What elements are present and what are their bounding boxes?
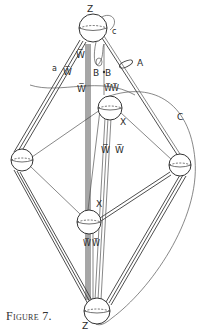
- sphere-upper-x: [98, 96, 122, 120]
- label-lower-x: X: [96, 199, 102, 209]
- edges-upper: [14, 36, 180, 156]
- label-w-middle: W̅: [77, 83, 86, 94]
- label-c-small: c: [112, 27, 116, 36]
- ellipse-a: [118, 59, 133, 70]
- sphere-top-z: [79, 14, 107, 42]
- label-c-curve: C: [177, 112, 183, 122]
- sphere-lower-x: [77, 210, 101, 234]
- label-b-left: B: [93, 68, 99, 78]
- sphere-left: [11, 149, 33, 171]
- label-upper-x: X: [120, 117, 126, 127]
- label-w-center-right: W̅: [115, 144, 124, 155]
- label-bottom-z: Z: [82, 321, 88, 330]
- label-small-a: a: [52, 64, 57, 73]
- label-a-ellipse: A: [137, 58, 144, 68]
- label-top-z: Z: [87, 4, 93, 14]
- label-w-lower-left: W̅: [83, 238, 91, 248]
- octahedron-diagram: Z c W̅ A a W̅ B B W̅ W̅ W̅ X C W̅ W̅ X W…: [0, 0, 205, 330]
- sphere-right: [169, 154, 191, 176]
- label-w-left: W̅: [63, 66, 72, 77]
- edges-lower: [14, 170, 186, 305]
- label-w-center-left: W̅: [101, 144, 110, 155]
- label-w-upper: W̅: [76, 49, 85, 60]
- label-w-right-top2: W̅: [111, 83, 119, 93]
- figure-caption: Figure 7.: [6, 309, 52, 324]
- central-bundle: [86, 44, 111, 300]
- label-b-right: B: [105, 68, 111, 78]
- label-w-lower-right: W̅: [92, 238, 100, 248]
